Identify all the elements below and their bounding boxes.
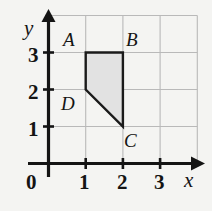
x-tick-label-3: 3 <box>154 172 165 193</box>
x-axis-arrow-icon <box>191 157 205 171</box>
y-tick-label-3: 3 <box>28 45 39 66</box>
x-tick-label-2: 2 <box>117 172 128 193</box>
vertex-label-a: A <box>63 30 75 49</box>
origin-tick-label: 0 <box>26 172 37 193</box>
y-tick-label-2: 2 <box>28 82 39 103</box>
vertex-label-d: D <box>61 94 75 113</box>
shaded-quadrilateral-abcd <box>86 53 123 127</box>
vertex-label-b: B <box>126 30 138 49</box>
coordinate-grid-figure: y x 0 1 2 3 1 2 3 A B C D <box>0 0 212 211</box>
x-axis-label: x <box>184 170 193 191</box>
vertex-label-c: C <box>124 131 137 150</box>
y-tick-label-1: 1 <box>28 119 39 140</box>
x-tick-label-1: 1 <box>79 172 90 193</box>
y-axis-label: y <box>24 18 33 39</box>
